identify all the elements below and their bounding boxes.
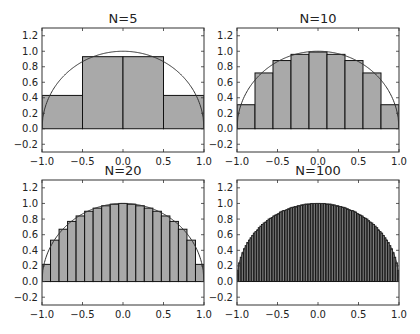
y-tick-label: 0.4 [217,92,233,103]
plot-area [42,51,204,129]
y-tick-label: 1.0 [217,46,233,57]
y-tick-label: 0.0 [217,123,233,134]
bar [59,229,68,281]
y-tick-label: 0.4 [22,245,38,256]
y-tick-label: 0.6 [217,77,233,88]
bar [119,203,128,281]
y-tick-label: 0.2 [217,260,233,271]
x-tick-label: 0.0 [310,309,326,320]
bar [170,221,179,281]
bar [110,204,119,281]
bar [51,240,60,281]
y-tick-label: −0.2 [14,292,38,303]
x-tick-label: 0.5 [351,309,367,320]
y-tick-label: 0.2 [22,260,38,271]
plot-area [237,51,399,129]
x-tick-label: −1.0 [225,156,249,167]
y-tick-label: 1.2 [22,182,38,193]
x-tick-label: 0.0 [115,309,131,320]
subplot-n5: −1.0−0.50.00.51.0−0.20.00.20.40.60.81.01… [14,11,212,167]
subplot-n10: −1.0−0.50.00.51.0−0.20.00.20.40.60.81.01… [209,11,407,167]
x-tick-label: −0.5 [265,156,289,167]
subplot-title: N=20 [104,163,141,178]
x-tick-label: 1.0 [196,156,212,167]
bar [187,240,196,281]
x-tick-label: −1.0 [225,309,249,320]
subplot-title: N=5 [109,11,138,26]
bar [345,61,363,129]
plot-area [237,203,399,281]
x-tick-label: −0.5 [265,309,289,320]
y-tick-label: 0.0 [217,276,233,287]
bar [123,57,164,129]
y-tick-label: 0.6 [22,229,38,240]
bar [144,208,153,281]
x-tick-label: 1.0 [196,309,212,320]
bar [85,211,94,281]
bar [309,52,327,129]
x-tick-label: 1.0 [391,309,407,320]
bar [255,73,273,129]
subplot-n20: −1.0−0.50.00.51.0−0.20.00.20.40.60.81.01… [14,163,212,320]
bar [127,204,136,281]
y-tick-label: 0.2 [22,108,38,119]
y-tick-label: 0.0 [22,123,38,134]
y-tick-label: 1.2 [22,30,38,41]
x-tick-label: 1.0 [391,156,407,167]
x-tick-label: −1.0 [30,156,54,167]
bar [327,54,345,128]
y-tick-label: 0.2 [217,108,233,119]
bar [136,206,145,282]
y-tick-label: 1.0 [22,198,38,209]
bar [83,57,124,129]
bar [102,206,111,282]
x-tick-label: 0.5 [156,156,172,167]
bar [68,221,77,281]
y-tick-label: 0.6 [22,77,38,88]
bar [161,216,170,282]
bar [273,61,291,129]
y-tick-label: 1.0 [22,46,38,57]
subplot-title: N=10 [299,11,336,26]
y-tick-label: 0.0 [22,276,38,287]
bar [93,208,102,281]
y-tick-label: 1.2 [217,182,233,193]
y-tick-label: 0.8 [22,214,38,225]
y-tick-label: 1.0 [217,198,233,209]
y-tick-label: 0.8 [217,61,233,72]
y-tick-label: 0.8 [217,214,233,225]
x-tick-label: −0.5 [70,156,94,167]
y-tick-label: −0.2 [209,292,233,303]
y-tick-label: 0.4 [217,245,233,256]
plot-area [42,203,204,281]
subplot-n100: −1.0−0.50.00.51.0−0.20.00.20.40.60.81.01… [209,163,407,320]
x-tick-label: 0.5 [156,309,172,320]
figure: −1.0−0.50.00.51.0−0.20.00.20.40.60.81.01… [0,0,420,334]
x-tick-label: −1.0 [30,309,54,320]
bar [363,73,381,129]
bar [76,216,85,282]
subplot-title: N=100 [295,163,340,178]
x-tick-label: 0.5 [351,156,367,167]
y-tick-label: 0.6 [217,229,233,240]
bar [291,54,309,128]
y-tick-label: −0.2 [14,139,38,150]
y-tick-label: 0.4 [22,92,38,103]
bar [178,229,187,281]
bar [153,211,162,281]
y-tick-label: −0.2 [209,139,233,150]
y-tick-label: 1.2 [217,30,233,41]
y-tick-label: 0.8 [22,61,38,72]
x-tick-label: −0.5 [70,309,94,320]
